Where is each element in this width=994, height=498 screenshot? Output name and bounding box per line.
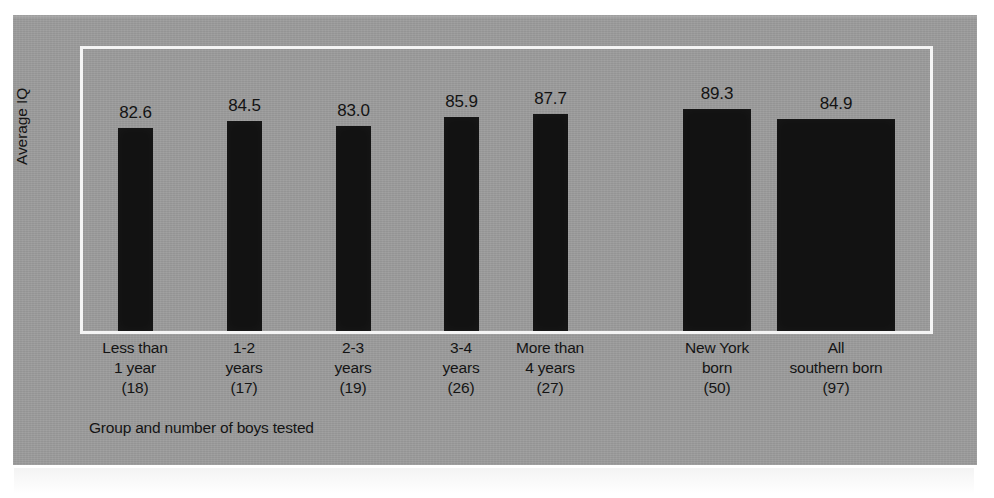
- bar-column: 87.7: [533, 114, 568, 331]
- bar: [227, 121, 262, 331]
- category-label-line: born: [685, 358, 749, 378]
- x-axis-category-labels: Less than1 year(18)1-2years(17)2-3years(…: [80, 338, 933, 420]
- category-label-line: 1-2: [226, 338, 263, 358]
- bar-value-label: 84.9: [820, 94, 852, 114]
- bar: [118, 128, 153, 331]
- bar-value-label: 83.0: [337, 101, 369, 121]
- bar: [533, 114, 568, 331]
- category-label-line: (19): [335, 378, 372, 398]
- bar-value-label: 87.7: [534, 89, 566, 109]
- category-label-line: 1 year: [102, 358, 167, 378]
- scanned-page: Average IQ 82.684.583.085.987.789.384.9 …: [0, 0, 994, 498]
- bar-column: 82.6: [118, 128, 153, 331]
- category-label-line: 2-3: [335, 338, 372, 358]
- bar-column: 85.9: [444, 117, 479, 331]
- bar-column: 83.0: [336, 126, 371, 331]
- bar-value-label: 84.5: [228, 96, 260, 116]
- bar-value-label: 82.6: [119, 103, 151, 123]
- bar-value-label: 89.3: [701, 84, 733, 104]
- category-label-line: years: [226, 358, 263, 378]
- page-bleed-through: [14, 468, 974, 494]
- category-label-line: 4 years: [516, 358, 584, 378]
- category-label: 2-3years(19): [335, 338, 372, 398]
- bar: [444, 117, 479, 331]
- figure-panel: Average IQ 82.684.583.085.987.789.384.9 …: [13, 15, 977, 465]
- bar-value-label: 85.9: [445, 92, 477, 112]
- category-label-line: 3-4: [443, 338, 480, 358]
- bar-series: 82.684.583.085.987.789.384.9: [80, 46, 933, 334]
- category-label: New Yorkborn(50): [685, 338, 749, 398]
- category-label-line: All: [789, 338, 882, 358]
- category-label-line: (27): [516, 378, 584, 398]
- bar-column: 89.3: [683, 109, 751, 331]
- category-label-line: More than: [516, 338, 584, 358]
- category-label: Allsouthern born(97): [789, 338, 882, 398]
- bar: [683, 109, 751, 331]
- category-label-line: (26): [443, 378, 480, 398]
- category-label-line: (97): [789, 378, 882, 398]
- category-label-line: (50): [685, 378, 749, 398]
- category-label-line: years: [443, 358, 480, 378]
- category-label-line: southern born: [789, 358, 882, 378]
- bar: [336, 126, 371, 331]
- category-label: 3-4years(26): [443, 338, 480, 398]
- bar: [777, 119, 895, 331]
- bar-column: 84.5: [227, 121, 262, 331]
- y-axis-title: Average IQ: [13, 88, 31, 165]
- category-label-line: Less than: [102, 338, 167, 358]
- category-label-line: (17): [226, 378, 263, 398]
- category-label-line: years: [335, 358, 372, 378]
- category-label-line: (18): [102, 378, 167, 398]
- bar-column: 84.9: [777, 119, 895, 331]
- category-label: More than4 years(27): [516, 338, 584, 398]
- category-label-line: New York: [685, 338, 749, 358]
- x-axis-caption: Group and number of boys tested: [89, 419, 314, 437]
- category-label: Less than1 year(18): [102, 338, 167, 398]
- category-label: 1-2years(17): [226, 338, 263, 398]
